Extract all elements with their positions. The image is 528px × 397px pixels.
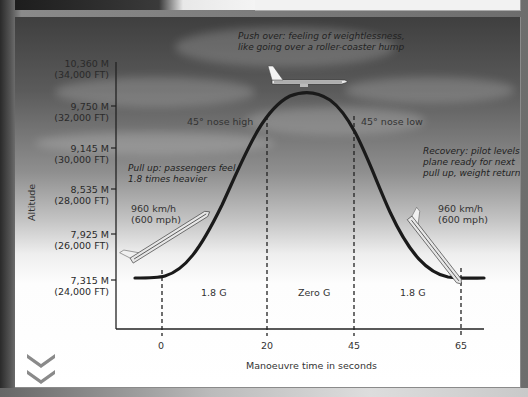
phase-label-zero-g: Zero G — [298, 287, 330, 298]
y-tick-26000: 7,925 M(26,000 FT) — [27, 229, 109, 251]
nose-low-label: 45° nose low — [361, 116, 423, 127]
recovery-annotation: Recovery: pilot levelsplane ready for ne… — [423, 146, 521, 179]
speed-label-left: 960 km/h(600 mph) — [131, 203, 181, 225]
top-strip — [15, 0, 255, 10]
phase-label-pullup: 1.8 G — [201, 287, 227, 298]
bottom-strip — [0, 388, 528, 397]
y-tick-32000: 9,750 M(32,000 FT) — [27, 101, 109, 123]
x-tick-0: 0 — [158, 340, 164, 351]
x-axis-title: Manoeuvre time in seconds — [246, 360, 377, 371]
y-tick-30000: 9,145 M(30,000 FT) — [27, 143, 109, 165]
nose-high-label: 45° nose high — [187, 116, 253, 127]
diagram-panel: 10,360 M(34,000 FT) 9,750 M(32,000 FT) 9… — [15, 17, 521, 388]
x-tick-45: 45 — [348, 340, 360, 351]
speed-label-right: 960 km/h(600 mph) — [438, 203, 488, 225]
top-strip-page — [255, 0, 521, 11]
plane-top-icon — [268, 66, 348, 87]
y-tick-28000: 8,535 M(28,000 FT) — [27, 184, 109, 206]
pull-up-annotation: Pull up: passengers feel1.8 times heavie… — [128, 163, 235, 185]
chevron-down-icon[interactable] — [27, 370, 55, 384]
y-tick-34000: 10,360 M(34,000 FT) — [27, 58, 109, 80]
phase-label-recovery: 1.8 G — [400, 287, 426, 298]
y-axis-title: Altitude — [26, 184, 37, 221]
x-tick-65: 65 — [455, 340, 467, 351]
push-over-annotation: Push over: feeling of weightlessness,lik… — [238, 31, 405, 53]
x-tick-20: 20 — [261, 340, 273, 351]
chevron-down-icon[interactable] — [27, 354, 55, 368]
y-tick-24000: 7,315 M(24,000 FT) — [27, 275, 109, 297]
